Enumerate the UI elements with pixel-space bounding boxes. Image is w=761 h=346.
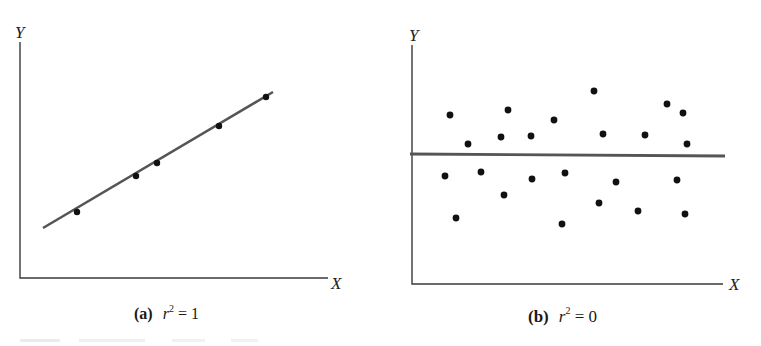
data-point [680,110,687,117]
data-point [562,170,569,177]
panel-b-axes [412,45,723,284]
panel-b-caption-value: = 0 [570,307,597,326]
data-point [664,101,671,108]
panel-a-caption: (a)r2 = 1 [134,305,199,322]
plot-canvas [0,0,761,346]
panel-a-caption-tag: (a) [134,305,153,322]
panel-b-chart [410,45,725,284]
data-point [529,176,536,183]
data-point [216,123,222,129]
data-point [74,209,80,215]
data-point [505,107,512,114]
data-point [263,94,269,100]
data-point [133,173,139,179]
data-point [447,112,454,119]
data-point [465,141,472,148]
panel-a-chart [20,42,328,278]
data-point [551,117,558,124]
panel-b-caption: (b)r2 = 0 [528,307,597,325]
data-point [682,211,689,218]
cropped-figure-caption [20,339,350,342]
data-point [442,173,449,180]
panel-a-caption-variable: r [163,305,169,322]
data-point [528,133,535,140]
data-point [642,132,649,139]
data-point [674,177,681,184]
data-point [635,208,642,215]
data-point [154,160,160,166]
data-point [453,215,460,222]
panel-b-caption-tag: (b) [528,307,549,326]
data-point [591,88,598,95]
data-point [684,141,691,148]
data-point [596,200,603,207]
panel-a-caption-exponent: 2 [169,303,174,314]
panel-b-y-axis-label: Y [409,27,418,44]
panel-b-regression-line [410,154,725,156]
data-point [498,134,505,141]
panel-b-caption-exponent: 2 [565,305,570,316]
panel-a-caption-value: = 1 [174,305,199,322]
panel-b-data-points [442,88,691,228]
data-point [501,192,508,199]
data-point [559,221,566,228]
panel-b-x-axis-label: X [729,276,739,293]
panel-a-x-axis-label: X [331,275,341,292]
panel-a-y-axis-label: Y [15,24,24,41]
panel-a-axes [20,42,328,278]
data-point [600,131,607,138]
data-point [613,179,620,186]
data-point [478,169,485,176]
